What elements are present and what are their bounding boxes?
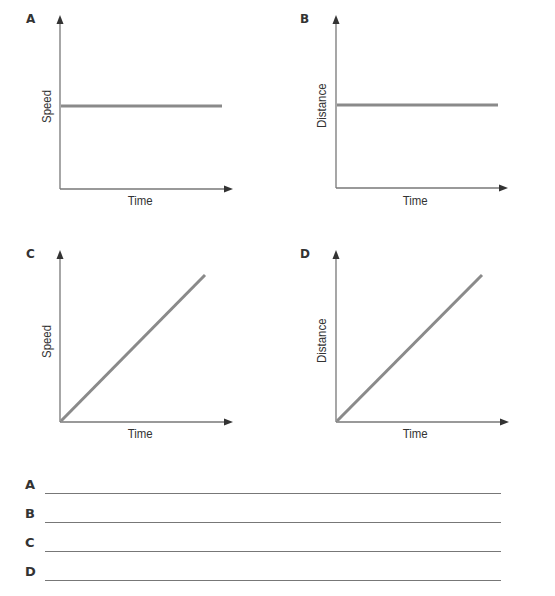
chart-panel-c: C Speed Time xyxy=(0,230,275,460)
answer-row-b[interactable]: B xyxy=(25,499,505,523)
answer-label: C xyxy=(25,535,35,550)
x-axis-label: Time xyxy=(403,426,428,441)
x-axis-label: Time xyxy=(403,193,428,208)
x-axis-label: Time xyxy=(128,193,153,208)
chart-panel-a: A Speed Time xyxy=(0,0,275,230)
answer-blank[interactable] xyxy=(45,493,501,494)
answer-row-a[interactable]: A xyxy=(25,470,505,494)
answer-label: D xyxy=(25,564,36,579)
answer-label: A xyxy=(25,477,35,492)
answer-blank[interactable] xyxy=(45,522,501,523)
chart-panel-b: B Distance Time xyxy=(275,0,550,230)
chart-panel-d: D Distance Time xyxy=(275,230,550,460)
answer-label: B xyxy=(25,506,35,521)
answer-blank[interactable] xyxy=(45,580,501,581)
y-axis-label: Speed xyxy=(39,90,54,123)
x-axis-label: Time xyxy=(128,426,153,441)
answer-blank[interactable] xyxy=(45,551,501,552)
answer-row-d[interactable]: D xyxy=(25,557,505,581)
y-axis-label: Distance xyxy=(314,318,329,363)
y-axis-label: Speed xyxy=(39,325,54,358)
y-axis-label: Distance xyxy=(314,83,329,128)
answer-row-c[interactable]: C xyxy=(25,528,505,552)
